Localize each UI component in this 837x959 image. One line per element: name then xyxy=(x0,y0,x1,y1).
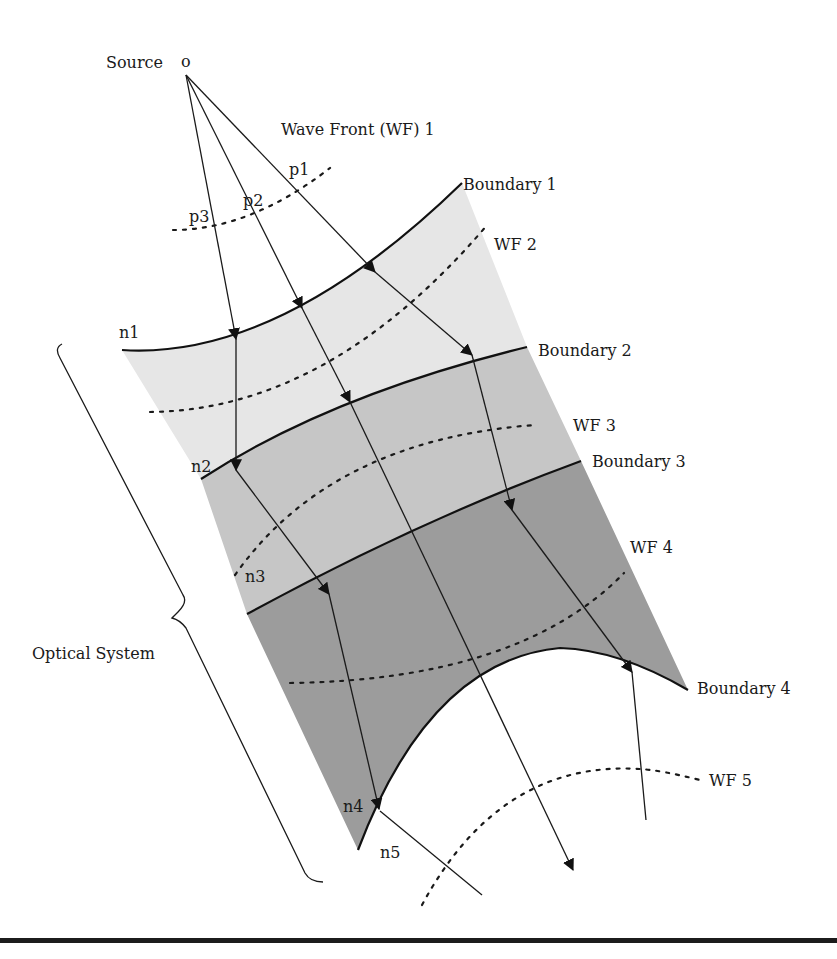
optical-system-label: Optical System xyxy=(32,644,155,663)
boundary-1-label: Boundary 1 xyxy=(463,175,557,194)
index-n4-label: n4 xyxy=(343,797,363,816)
boundary-2-label: Boundary 2 xyxy=(538,341,632,360)
point-p1-label: p1 xyxy=(289,160,309,179)
wavefront-4-label: WF 4 xyxy=(630,538,673,557)
boundary-3-label: Boundary 3 xyxy=(592,452,686,471)
index-n3-label: n3 xyxy=(245,567,265,586)
index-n5-label: n5 xyxy=(380,843,400,862)
index-n2-label: n2 xyxy=(191,457,211,476)
wavefront-1-label: Wave Front (WF) 1 xyxy=(281,120,435,139)
optical-system-diagram: Source o Wave Front (WF) 1 WF 2 WF 3 WF … xyxy=(0,0,837,959)
wavefront-3-label: WF 3 xyxy=(573,416,616,435)
bottom-rule xyxy=(0,938,837,943)
source-marker: o xyxy=(181,52,191,71)
wavefront-5 xyxy=(422,768,700,905)
point-p3-label: p3 xyxy=(189,207,209,226)
wavefront-2-label: WF 2 xyxy=(494,235,537,254)
index-n1-label: n1 xyxy=(119,323,139,342)
wavefront-5-label: WF 5 xyxy=(709,771,752,790)
boundary-4-label: Boundary 4 xyxy=(697,679,791,698)
point-p2-label: p2 xyxy=(243,191,263,210)
source-label: Source xyxy=(106,53,163,72)
